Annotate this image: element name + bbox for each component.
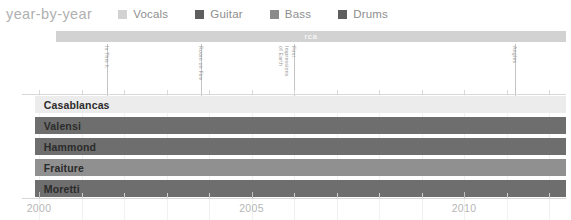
member-bar[interactable]: Valensi <box>35 117 566 134</box>
legend-item-label: Drums <box>353 8 388 20</box>
page-title: year-by-year <box>6 6 92 22</box>
legend: VocalsGuitarBassDrums <box>118 8 415 20</box>
album-marker[interactable]: Room on Fire <box>201 44 202 98</box>
year-by-year-chart: year-by-year VocalsGuitarBassDrums rca I… <box>0 0 571 220</box>
legend-swatch-icon <box>270 10 279 19</box>
album-marker[interactable]: Angles <box>515 44 516 98</box>
x-axis-tick-minor <box>549 193 550 198</box>
axis-tick <box>124 90 125 94</box>
legend-swatch-icon <box>118 10 127 19</box>
album-marker-label: First Impressions of Earth <box>278 46 298 80</box>
album-marker-label: Angles <box>512 46 519 63</box>
member-name-label: Moretti <box>44 183 80 195</box>
x-axis-tick-minor <box>167 193 168 198</box>
x-axis-tick-major <box>252 192 253 198</box>
x-axis-tick-minor <box>337 193 338 198</box>
x-axis-tick-minor <box>209 193 210 198</box>
axis-tick <box>39 90 40 94</box>
axis-tick <box>379 90 380 94</box>
axis-tick <box>549 90 550 94</box>
x-axis-tick-label: 2005 <box>239 202 264 214</box>
era-bar[interactable]: rca <box>56 31 566 42</box>
chart-header: year-by-year VocalsGuitarBassDrums <box>0 0 571 28</box>
axis-tick <box>82 90 83 94</box>
legend-swatch-icon <box>338 10 347 19</box>
plot-area: rca Is This ItRoom on FireFirst Impressi… <box>0 28 571 198</box>
member-name-label: Fraiture <box>44 162 84 174</box>
member-name-label: Hammond <box>44 141 96 153</box>
x-axis-tick-label: 2010 <box>452 202 477 214</box>
x-axis-tick-minor <box>379 193 380 198</box>
axis-tick <box>209 90 210 94</box>
member-bar[interactable]: Moretti <box>35 180 566 197</box>
member-name-label: Casablancas <box>44 99 110 111</box>
axis-tick <box>422 90 423 94</box>
member-bar[interactable]: Hammond <box>35 138 566 155</box>
legend-item-label: Guitar <box>210 8 243 20</box>
album-marker[interactable]: Is This It <box>107 44 108 98</box>
table-row[interactable]: Casablancas <box>0 96 571 113</box>
member-rows: CasablancasValensiHammondFraitureMoretti <box>0 96 571 201</box>
x-axis-tick-minor <box>422 193 423 198</box>
axis-tick <box>252 90 253 94</box>
x-axis: 200020052010 <box>0 198 571 220</box>
legend-item-label: Bass <box>285 8 311 20</box>
album-marker-label: Room on Fire <box>197 46 204 80</box>
axis-top-rule <box>22 94 566 95</box>
legend-item-label: Vocals <box>133 8 168 20</box>
x-axis-tick-label: 2000 <box>27 202 52 214</box>
member-name-label: Valensi <box>44 120 81 132</box>
axis-tick <box>464 90 465 94</box>
x-axis-tick-minor <box>507 193 508 198</box>
legend-item[interactable]: Guitar <box>195 8 243 20</box>
legend-item[interactable]: Bass <box>270 8 311 20</box>
table-row[interactable]: Moretti <box>0 180 571 197</box>
axis-tick <box>507 90 508 94</box>
x-axis-tick-minor <box>294 193 295 198</box>
member-bar[interactable]: Fraiture <box>35 159 566 176</box>
legend-item[interactable]: Drums <box>338 8 388 20</box>
x-axis-line <box>22 198 566 199</box>
axis-tick <box>167 90 168 94</box>
axis-tick <box>337 90 338 94</box>
legend-swatch-icon <box>195 10 204 19</box>
era-bar-label: rca <box>305 33 318 41</box>
member-bar[interactable]: Casablancas <box>35 96 566 113</box>
x-axis-tick-minor <box>82 193 83 198</box>
table-row[interactable]: Fraiture <box>0 159 571 176</box>
legend-item[interactable]: Vocals <box>118 8 168 20</box>
x-axis-tick-major <box>464 192 465 198</box>
album-marker-label: Is This It <box>104 46 111 68</box>
table-row[interactable]: Valensi <box>0 117 571 134</box>
x-axis-tick-minor <box>124 193 125 198</box>
axis-tick <box>294 90 295 94</box>
table-row[interactable]: Hammond <box>0 138 571 155</box>
x-axis-tick-major <box>39 192 40 198</box>
